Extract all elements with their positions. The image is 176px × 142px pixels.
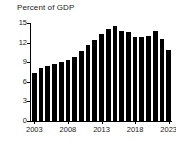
bar — [106, 29, 111, 121]
x-axis-tick-mark — [68, 121, 69, 124]
bar — [166, 50, 171, 121]
bar — [133, 37, 138, 121]
y-axis-tick-label: 0 — [0, 117, 27, 125]
x-axis-tick-mark — [169, 121, 170, 124]
bar — [153, 31, 158, 121]
bar — [113, 26, 118, 121]
x-axis-tick-label: 2008 — [60, 125, 77, 134]
bar — [32, 73, 37, 121]
bar — [99, 34, 104, 121]
bar — [92, 40, 97, 121]
y-axis-tick-mark — [27, 121, 30, 122]
bar — [119, 31, 124, 121]
bar — [126, 32, 131, 121]
bar — [139, 37, 144, 121]
bar — [160, 39, 165, 121]
bar — [39, 68, 44, 121]
bar — [86, 45, 91, 121]
y-axis-tick-mark — [27, 62, 30, 63]
x-axis-tick-label: 2013 — [93, 125, 110, 134]
chart-figure: Percent of GDP 0369121520032008201320182… — [0, 0, 176, 142]
y-axis-tick-label: 3 — [0, 97, 27, 105]
bar — [146, 36, 151, 121]
y-axis-tick-mark — [27, 23, 30, 24]
y-axis-tick-label: 6 — [0, 78, 27, 86]
x-axis-tick-label: 2018 — [127, 125, 144, 134]
bar — [52, 64, 57, 121]
x-axis-tick-label: 2003 — [26, 125, 43, 134]
y-axis-tick-mark — [27, 82, 30, 83]
bar — [59, 62, 64, 121]
chart-title: Percent of GDP — [17, 3, 74, 12]
bar — [66, 60, 71, 121]
bar — [79, 51, 84, 121]
y-axis-tick-label: 15 — [0, 19, 27, 27]
bar — [72, 57, 77, 121]
x-axis-tick-mark — [34, 121, 35, 124]
y-axis-tick-label: 12 — [0, 39, 27, 47]
y-axis-tick-mark — [27, 43, 30, 44]
x-axis-tick-label: 2023 — [160, 125, 176, 134]
y-axis-tick-mark — [27, 101, 30, 102]
x-axis-tick-mark — [102, 121, 103, 124]
y-axis-tick-label: 9 — [0, 58, 27, 66]
x-axis-tick-mark — [135, 121, 136, 124]
bar — [45, 66, 50, 121]
plot-area — [31, 23, 172, 121]
